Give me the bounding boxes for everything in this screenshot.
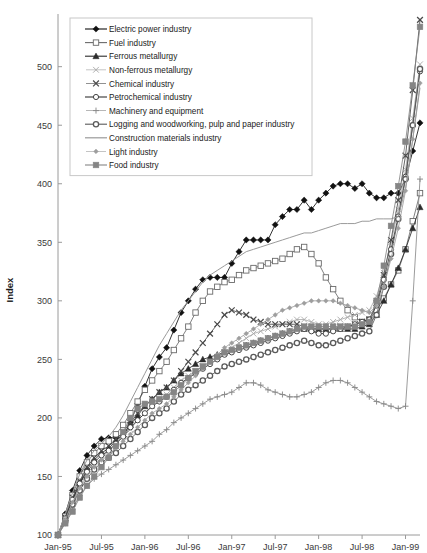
data-point-marker [345, 336, 350, 341]
data-point-marker [120, 429, 126, 435]
data-point-marker [266, 317, 271, 322]
data-point-marker [352, 324, 358, 330]
data-point-marker [178, 392, 183, 397]
data-point-marker [186, 387, 191, 392]
data-point-marker [149, 366, 155, 372]
data-point-marker [62, 520, 68, 526]
y-axis-title: Index [4, 277, 15, 303]
data-point-marker [359, 331, 364, 336]
data-point-marker [417, 66, 422, 71]
series-line [58, 179, 420, 535]
data-point-marker [77, 495, 83, 501]
data-point-marker [244, 331, 249, 336]
data-point-marker [352, 185, 358, 191]
data-point-marker [309, 251, 314, 256]
data-point-marker [236, 272, 241, 277]
x-tick-label: Jan-98 [305, 542, 333, 552]
data-point-marker [207, 289, 212, 294]
data-point-marker [301, 244, 306, 249]
data-point-marker [316, 299, 321, 304]
data-point-marker [150, 415, 155, 420]
data-point-marker [323, 324, 329, 330]
data-point-marker [192, 361, 198, 367]
legend-item-label: Food industry [109, 161, 160, 170]
data-point-marker [302, 301, 307, 306]
data-point-marker [258, 237, 264, 243]
data-point-marker [388, 223, 394, 229]
data-point-marker [345, 324, 351, 330]
y-tick-label: 450 [37, 121, 52, 131]
legend-item-label: Light industry [109, 148, 159, 157]
y-tick-label: 150 [37, 472, 52, 482]
y-axis: 100150200250300350400450500 [37, 14, 62, 540]
x-tick-label: Jan-97 [218, 542, 246, 552]
data-point-marker [353, 306, 358, 311]
legend-item-label: Petrochemical industry [109, 93, 193, 102]
data-point-marker [113, 450, 118, 455]
data-point-marker [135, 399, 140, 404]
legend-item-7[interactable]: Logging and woodworking, pulp and paper … [85, 120, 295, 129]
data-point-marker [106, 448, 111, 453]
data-point-marker [142, 401, 148, 407]
data-point-marker [338, 324, 344, 330]
data-point-marker [251, 327, 256, 332]
data-point-marker [251, 340, 257, 346]
industry-index-line-chart: 100150200250300350400450500 Jan-95Jul-95… [0, 0, 427, 553]
data-point-marker [214, 354, 220, 360]
y-tick-label: 300 [37, 296, 52, 306]
data-point-marker [272, 333, 278, 339]
data-point-marker [120, 422, 125, 427]
data-point-marker [287, 328, 293, 334]
data-point-marker [374, 298, 380, 304]
data-point-marker [294, 340, 299, 345]
data-point-marker [410, 225, 416, 231]
data-point-marker [142, 387, 147, 392]
data-point-marker [403, 139, 409, 145]
data-point-marker [251, 265, 256, 270]
data-point-marker [417, 120, 423, 126]
data-point-marker [171, 327, 177, 333]
y-tick-label: 250 [37, 355, 52, 365]
data-point-marker [128, 415, 134, 421]
data-point-marker [215, 284, 220, 289]
data-point-marker [309, 324, 315, 330]
data-point-marker [113, 432, 118, 437]
data-point-marker [417, 24, 423, 30]
legend-item-label: Machinery and equipment [109, 107, 204, 116]
data-point-marker [106, 439, 111, 444]
data-point-marker [280, 308, 285, 313]
data-point-marker [128, 425, 133, 430]
data-point-marker [280, 256, 285, 261]
x-axis: Jan-95Jul-95Jan-96Jul-96Jan-97Jul-97Jan-… [44, 535, 420, 552]
data-point-marker [374, 312, 379, 317]
data-point-marker [410, 83, 416, 89]
data-point-marker [309, 299, 314, 304]
data-point-marker [359, 321, 365, 327]
data-point-marker [222, 364, 227, 369]
data-point-marker [367, 319, 373, 325]
data-point-marker [236, 359, 241, 364]
chart-legend[interactable]: Electric power industryFuel industryFerr… [70, 18, 312, 176]
data-point-marker [178, 336, 183, 341]
data-point-marker [93, 122, 98, 127]
data-point-marker [417, 190, 422, 195]
data-point-marker [157, 411, 162, 416]
data-point-marker [55, 532, 61, 538]
data-point-marker [331, 340, 336, 345]
data-point-marker [135, 429, 140, 434]
x-tick-label: Jan-96 [131, 542, 159, 552]
data-point-marker [294, 326, 300, 332]
y-tick-label: 100 [37, 530, 52, 540]
data-point-marker [207, 373, 212, 378]
data-point-marker [186, 375, 192, 381]
data-point-marker [113, 443, 119, 449]
data-point-marker [243, 237, 249, 243]
data-point-marker [142, 411, 147, 416]
data-point-marker [171, 399, 176, 404]
data-point-marker [171, 389, 177, 395]
data-point-marker [280, 331, 286, 337]
data-point-marker [149, 378, 154, 383]
y-tick-label: 400 [37, 179, 52, 189]
data-point-marker [337, 181, 343, 187]
data-point-marker [164, 359, 169, 364]
